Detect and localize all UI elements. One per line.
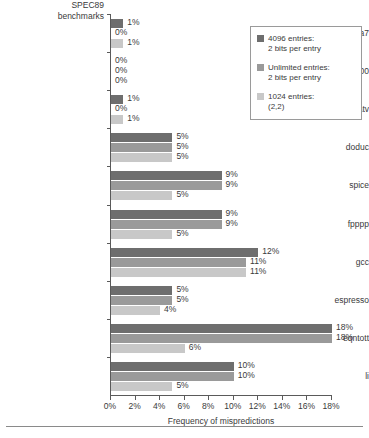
bar[interactable] (111, 143, 172, 152)
legend-swatch (257, 64, 264, 71)
bar[interactable] (111, 220, 222, 229)
bar[interactable] (111, 171, 222, 180)
x-axis-tick (233, 396, 234, 400)
chart-legend: 4096 entries:2 bits per entryUnlimited e… (250, 26, 362, 120)
bar-row: 9% (111, 171, 332, 180)
x-axis-tick-label: 16% (298, 401, 315, 412)
bar-row: 5% (111, 153, 332, 162)
y-axis-title-line1: SPEC89 (71, 0, 104, 10)
x-axis-tick (110, 396, 111, 400)
x-axis-tick (331, 396, 332, 400)
y-axis-tick-label: doduc (265, 142, 369, 152)
y-axis-tick-label: spice (265, 180, 369, 190)
y-axis-tick-label: li (265, 371, 369, 381)
x-axis-tick-label: 0% (104, 401, 116, 412)
bar[interactable] (111, 153, 172, 162)
bar-value-label: 0% (115, 27, 127, 38)
x-axis-tick (135, 396, 136, 400)
bar-value-label: 0% (115, 75, 127, 86)
y-axis-tick-label: eqntott (265, 333, 369, 343)
bar[interactable] (111, 210, 222, 219)
x-axis-tick (257, 396, 258, 400)
y-axis-tick (107, 90, 111, 91)
y-axis-tick (107, 52, 111, 53)
bar-row: 4% (111, 306, 332, 315)
y-axis-tick (107, 281, 111, 282)
bar-value-label: 10% (238, 370, 255, 381)
bar-value-label: 6% (189, 342, 201, 353)
bar-row: 5% (111, 191, 332, 200)
legend-entry-line1: Unlimited entries: (257, 63, 355, 73)
bar-value-label: 4% (164, 304, 176, 315)
y-axis-tick (107, 166, 111, 167)
bar-value-label: 1% (127, 17, 139, 28)
legend-swatch (257, 35, 264, 42)
x-axis-ticks: 0%2%4%6%8%10%12%14%16%18% (110, 396, 332, 401)
legend-entry-line1: 1024 entries: (257, 92, 355, 102)
footer-divider (6, 426, 363, 427)
x-axis-tick-label: 18% (322, 401, 339, 412)
legend-entry-line1: 4096 entries: (257, 34, 355, 44)
bar-row: 5% (111, 133, 332, 142)
legend-entry-line2: 2 bits per entry (257, 44, 355, 54)
bar-row: 6% (111, 344, 332, 353)
bar[interactable] (111, 191, 172, 200)
bar-row: 5% (111, 230, 332, 239)
y-axis-tick (107, 357, 111, 358)
bar[interactable] (111, 286, 172, 295)
chart-figure: SPEC89 benchmarks 1%0%1%0%0%0%1%0%1%5%5%… (0, 0, 369, 438)
bar[interactable] (111, 230, 172, 239)
bar-value-label: 1% (127, 93, 139, 104)
bar[interactable] (111, 115, 123, 124)
bar[interactable] (111, 248, 258, 257)
bar[interactable] (111, 372, 234, 381)
bar[interactable] (111, 382, 172, 391)
x-axis-title: Frequency of mispredictions (110, 416, 332, 426)
y-axis-tick-label: fpppp (265, 219, 369, 229)
bar-row: 11% (111, 268, 332, 277)
bar-value-label: 0% (115, 103, 127, 114)
x-axis-tick (306, 396, 307, 400)
legend-label-primary: 4096 entries: (268, 34, 314, 43)
bar[interactable] (111, 39, 123, 48)
bar[interactable] (111, 306, 160, 315)
y-axis-tick-label: gcc (265, 257, 369, 267)
bar[interactable] (111, 133, 172, 142)
x-axis-tick-label: 6% (178, 401, 190, 412)
legend-entry[interactable]: 1024 entries:(2,2) (257, 92, 355, 112)
bar-row: 5% (111, 382, 332, 391)
bar-value-label: 1% (127, 37, 139, 48)
x-axis-tick (184, 396, 185, 400)
bar-value-label: 9% (226, 218, 238, 229)
y-axis-title-line2: benchmarks (58, 11, 104, 21)
bar-value-label: 5% (176, 228, 188, 239)
legend-label-primary: 1024 entries: (268, 92, 314, 101)
bar-value-label: 1% (127, 113, 139, 124)
bar[interactable] (111, 362, 234, 371)
bar[interactable] (111, 181, 222, 190)
x-axis-tick-label: 12% (249, 401, 266, 412)
x-axis-tick (159, 396, 160, 400)
legend-label-primary: Unlimited entries: (268, 63, 330, 72)
bar-row: 10% (111, 362, 332, 371)
legend-entry[interactable]: 4096 entries:2 bits per entry (257, 34, 355, 54)
y-axis-title: SPEC89 benchmarks (4, 0, 104, 22)
x-axis-tick (208, 396, 209, 400)
bar-value-label: 5% (176, 151, 188, 162)
bar[interactable] (111, 268, 246, 277)
bar[interactable] (111, 324, 332, 333)
legend-entry[interactable]: Unlimited entries:2 bits per entry (257, 63, 355, 83)
bar[interactable] (111, 258, 246, 267)
bar-value-label: 11% (250, 266, 266, 277)
bar[interactable] (111, 344, 185, 353)
bar-row: 18% (111, 324, 332, 333)
y-axis-tick-label: espresso (265, 295, 369, 305)
x-axis-tick (282, 396, 283, 400)
bar-row: 9% (111, 210, 332, 219)
legend-entry-line2: 2 bits per entry (257, 73, 355, 83)
bar-value-label: 5% (176, 189, 188, 200)
legend-swatch (257, 93, 264, 100)
x-axis-tick-label: 2% (128, 401, 140, 412)
bar-value-label: 5% (176, 380, 188, 391)
legend-entry-line2: (2,2) (257, 102, 355, 112)
